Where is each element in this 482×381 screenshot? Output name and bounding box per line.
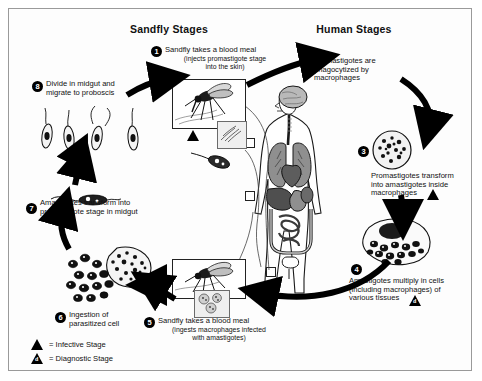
diagram-frame: Sandfly Stages Human Stages [8, 8, 472, 371]
legend-diagnostic-icon [31, 353, 43, 364]
legend-diagnostic-label: = Diagnostic Stage [49, 354, 113, 363]
diagram-page: Sandfly Stages Human Stages [0, 0, 482, 381]
arrow-2-to-3 [401, 79, 430, 127]
arrow-7-to-8 [75, 161, 81, 185]
arrow-6-to-7 [61, 209, 69, 249]
arrow-3-to-4 [401, 195, 403, 217]
arrow-1-to-2 [247, 59, 317, 85]
arrow-8-to-1 [127, 79, 167, 95]
legend-infective-icon [31, 339, 43, 350]
cycle-arrows [9, 9, 473, 372]
arrow-4-to-5 [261, 261, 389, 297]
legend-infective-label: = Infective Stage [49, 340, 106, 349]
